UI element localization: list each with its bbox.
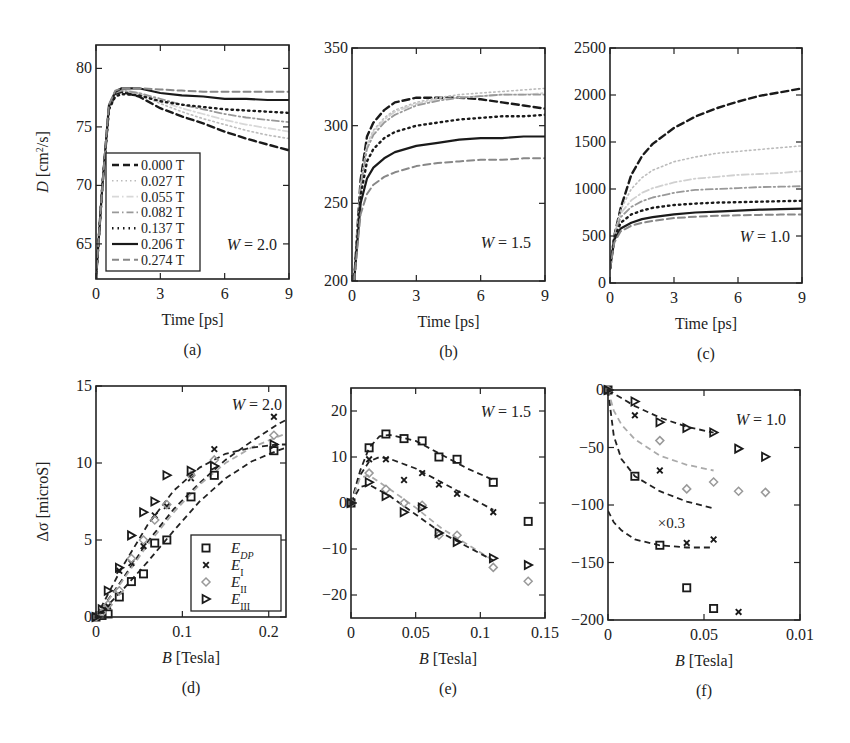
legend-label: 0.206 T bbox=[141, 237, 185, 252]
x-tick-label: 0.1 bbox=[172, 623, 192, 640]
series-line bbox=[610, 146, 802, 269]
y-tick-label: 2000 bbox=[574, 86, 606, 103]
marker-x bbox=[490, 509, 496, 515]
panel-caption: (e) bbox=[439, 680, 457, 698]
x-tick-label: 0.05 bbox=[402, 624, 430, 641]
marker-x bbox=[436, 482, 442, 488]
marker-diamond bbox=[489, 563, 497, 571]
y-tick-label: 1000 bbox=[574, 180, 606, 197]
panel-caption: (b) bbox=[439, 343, 458, 361]
fit-curve bbox=[351, 485, 493, 561]
marker-x bbox=[736, 609, 742, 615]
panel-e: 00.050.10.15−20−1001020B [Tesla](e)W = 1… bbox=[322, 388, 559, 698]
x-tick-label: 0 bbox=[348, 287, 356, 304]
w-annotation: W = 1.0 bbox=[736, 411, 786, 428]
panel-d: 00.10.2051015B [Tesla](d)Δσ [microS]W = … bbox=[34, 377, 286, 697]
x-axis-label: B [Tesla] bbox=[419, 650, 477, 667]
w-annotation: W = 2.0 bbox=[232, 396, 282, 413]
x-tick-label: 0 bbox=[92, 623, 100, 640]
y-tick-label: 75 bbox=[76, 118, 92, 135]
x-tick-label: 6 bbox=[221, 285, 229, 302]
x-axis-label: B [Tesla] bbox=[162, 649, 220, 666]
series-line bbox=[354, 115, 545, 281]
y-tick-label: 10 bbox=[76, 454, 92, 471]
plot-frame bbox=[610, 48, 802, 283]
x-tick-label: 9 bbox=[798, 289, 806, 306]
panel-a: 036965707580Time [ps](a)D [cm2/s]W = 2.0… bbox=[34, 45, 294, 359]
y-tick-label: 80 bbox=[76, 59, 92, 76]
y-tick-label: 350 bbox=[324, 39, 348, 56]
y-tick-label: 500 bbox=[582, 227, 606, 244]
figure: 036965707580Time [ps](a)D [cm2/s]W = 2.0… bbox=[0, 0, 850, 743]
marker-triangle-right bbox=[631, 398, 638, 406]
y-tick-label: −200 bbox=[571, 611, 604, 628]
x-tick-label: 9 bbox=[541, 287, 549, 304]
plot-area bbox=[351, 435, 493, 561]
marker-square bbox=[525, 518, 532, 525]
legend-label: 0.137 T bbox=[141, 221, 185, 236]
marker-square bbox=[683, 584, 690, 591]
x-tick-label: 6 bbox=[477, 287, 485, 304]
w-annotation: W = 1.5 bbox=[481, 403, 531, 420]
marker-diamond bbox=[656, 437, 664, 445]
panel-f: 00.050.01−200−150−100−500B [Tesla](f)W =… bbox=[571, 381, 814, 700]
legend-label: 0.055 T bbox=[141, 190, 185, 205]
x-axis-label: Time [ps] bbox=[675, 315, 737, 333]
series-line bbox=[354, 95, 545, 281]
marker-triangle-right bbox=[128, 531, 135, 539]
fit-curve bbox=[608, 390, 714, 508]
marker-diamond bbox=[524, 577, 532, 585]
x-tick-label: 6 bbox=[734, 289, 742, 306]
y-tick-label: −50 bbox=[579, 439, 604, 456]
w-annotation: W = 2.0 bbox=[227, 236, 277, 253]
y-tick-label: 2500 bbox=[574, 39, 606, 56]
y-tick-label: 200 bbox=[324, 272, 348, 289]
marker-x bbox=[212, 446, 218, 452]
x-axis-label: Time [ps] bbox=[417, 313, 479, 331]
x-tick-label: 3 bbox=[156, 285, 164, 302]
x-tick-label: 0.1 bbox=[470, 624, 490, 641]
marker-square bbox=[151, 539, 158, 546]
legend-label: 0.274 T bbox=[141, 253, 185, 268]
panel-caption: (d) bbox=[182, 679, 201, 697]
legend-label: 0.082 T bbox=[141, 205, 185, 220]
x-tick-label: 0.2 bbox=[259, 623, 279, 640]
y-tick-label: 15 bbox=[76, 377, 92, 394]
plot-frame bbox=[351, 388, 545, 618]
marker-x bbox=[657, 468, 663, 474]
y-tick-label: 1500 bbox=[574, 133, 606, 150]
marker-x bbox=[711, 537, 717, 543]
x-tick-label: 0.15 bbox=[531, 624, 559, 641]
w-annotation: W = 1.0 bbox=[740, 228, 790, 245]
y-tick-label: −10 bbox=[322, 540, 347, 557]
series-line bbox=[354, 88, 545, 281]
scale-annotation: ×0.3 bbox=[658, 515, 685, 531]
y-tick-label: −100 bbox=[571, 496, 604, 513]
y-tick-label: 0 bbox=[339, 494, 347, 511]
marker-triangle-right bbox=[762, 453, 769, 461]
series-line bbox=[354, 93, 545, 281]
series-line bbox=[354, 158, 545, 281]
marker-x bbox=[684, 540, 690, 546]
marker-triangle-right bbox=[383, 492, 390, 500]
marker-x bbox=[401, 477, 407, 483]
y-tick-label: 250 bbox=[324, 194, 348, 211]
x-axis-label: B [Tesla] bbox=[675, 652, 733, 669]
x-tick-label: 0.01 bbox=[786, 626, 814, 643]
fit-curve bbox=[351, 475, 493, 560]
marker-square bbox=[140, 570, 147, 577]
y-tick-label: −150 bbox=[571, 554, 604, 571]
x-tick-label: 0 bbox=[604, 626, 612, 643]
y-tick-label: 10 bbox=[331, 448, 347, 465]
marker-square bbox=[435, 453, 442, 460]
marker-triangle-right bbox=[683, 424, 690, 432]
y-tick-label: 20 bbox=[331, 402, 347, 419]
y-axis-label: D [cm2/s] bbox=[34, 131, 52, 193]
panel-caption: (c) bbox=[697, 345, 715, 363]
x-tick-label: 3 bbox=[412, 287, 420, 304]
marker-x bbox=[454, 491, 460, 497]
panel-caption: (f) bbox=[696, 682, 712, 700]
marker-diamond bbox=[683, 485, 691, 493]
legend: 0.000 T0.027 T0.055 T0.082 T0.137 T0.206… bbox=[106, 153, 200, 271]
marker-diamond bbox=[735, 487, 743, 495]
